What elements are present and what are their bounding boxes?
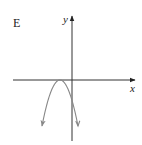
figure-label: E bbox=[13, 16, 20, 30]
y-axis-label: y bbox=[62, 13, 68, 25]
graph-figure: E x y bbox=[0, 0, 142, 145]
parabola-curve bbox=[42, 80, 78, 126]
x-axis-label: x bbox=[129, 82, 135, 94]
